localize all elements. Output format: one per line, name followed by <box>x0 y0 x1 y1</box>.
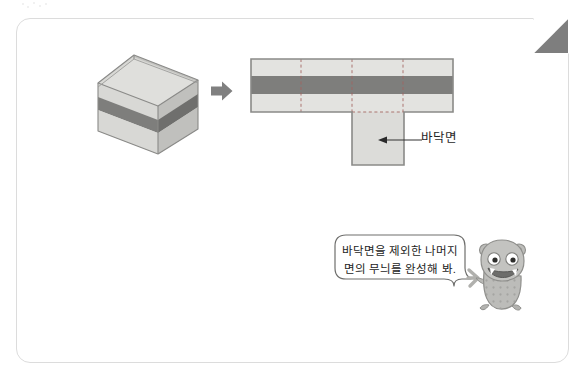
speech-line-1: 바닥면을 제외한 나머지 <box>342 243 458 261</box>
box-net-figure <box>250 58 454 166</box>
right-arrow-icon <box>210 80 234 102</box>
scan-artifact <box>22 2 48 10</box>
speech-bubble-text: 바닥면을 제외한 나머지 면의 무늬를 완성해 봐. <box>334 231 466 290</box>
speech-line-2: 면의 무늬를 완성해 봐. <box>344 261 456 279</box>
callout-leader-line <box>378 135 422 137</box>
worksheet-canvas: 바닥면 바닥면을 제외한 나머지 면의 무늬를 완성해 봐. <box>0 0 587 377</box>
bottom-face-label: 바닥면 <box>421 127 458 146</box>
striped-box-figure <box>86 36 202 158</box>
speech-bubble: 바닥면을 제외한 나머지 면의 무늬를 완성해 봐. <box>334 231 466 290</box>
monster-character-icon <box>462 228 538 312</box>
